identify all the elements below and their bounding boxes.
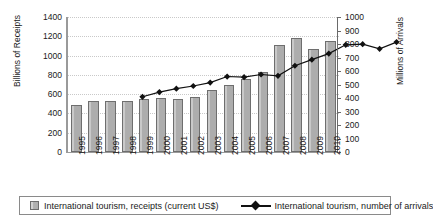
left-y-tick-label: 1200 <box>16 32 62 41</box>
right-y-tick-label: 800 <box>345 40 375 49</box>
legend-label-receipts: International tourism, receipts (current… <box>44 201 219 211</box>
x-tick-label: 2005 <box>248 136 257 155</box>
legend-label-arrivals: International tourism, number of arrival… <box>275 201 433 211</box>
data-point-marker <box>156 89 162 95</box>
right-y-tick <box>337 58 341 59</box>
x-tick-label: 2004 <box>231 136 240 155</box>
right-y-tick-label: 500 <box>345 80 375 89</box>
left-y-tick-label: 1000 <box>16 51 62 60</box>
x-tick-label: 1999 <box>146 136 155 155</box>
x-tick-label: 2003 <box>214 136 223 155</box>
legend-item-receipts: International tourism, receipts (current… <box>20 197 219 214</box>
right-y-tick-label: 200 <box>345 121 375 130</box>
x-tick-label: 2010 <box>333 136 342 155</box>
gridline <box>68 17 339 18</box>
right-y-tick-label: 100 <box>345 134 375 143</box>
data-point-marker <box>139 94 145 100</box>
left-y-tick-label: 1400 <box>16 13 62 22</box>
right-y-tick <box>337 44 341 45</box>
x-tick-label: 2006 <box>265 136 274 155</box>
data-point-marker <box>292 63 298 69</box>
data-point-marker <box>275 73 281 79</box>
right-y-tick-label: 600 <box>345 67 375 76</box>
right-y-tick <box>337 85 341 86</box>
left-y-tick-label: 600 <box>16 90 62 99</box>
data-point-marker <box>173 86 179 92</box>
right-y-tick-label: 400 <box>345 94 375 103</box>
right-y-axis-title: Millions of Arrivals <box>395 0 405 106</box>
left-y-tick-label: 0 <box>16 148 62 157</box>
data-point-marker <box>207 80 213 86</box>
left-y-tick-label: 200 <box>16 128 62 137</box>
legend-swatch-icon <box>30 201 39 210</box>
x-tick-label: 1998 <box>129 136 138 155</box>
chart-legend: International tourism, receipts (current… <box>19 196 391 215</box>
data-point-marker <box>224 73 230 79</box>
plot-area <box>66 17 337 152</box>
x-tick-label: 2009 <box>316 136 325 155</box>
data-point-marker <box>326 50 332 56</box>
data-point-marker <box>309 57 315 63</box>
data-point-marker <box>258 71 264 77</box>
data-point-marker <box>190 83 196 89</box>
data-point-marker <box>241 74 247 80</box>
x-tick-label: 2008 <box>299 136 308 155</box>
x-tick-label: 2007 <box>282 136 291 155</box>
x-tick-label: 1995 <box>78 136 87 155</box>
right-y-tick-label: 300 <box>345 107 375 116</box>
right-y-tick <box>337 125 341 126</box>
legend-line-diamond-icon <box>241 201 271 210</box>
x-tick-label: 2002 <box>197 136 206 155</box>
right-y-tick <box>337 71 341 72</box>
chart-canvas: Billions of Receipts 0200400600800100012… <box>0 0 410 190</box>
left-y-tick-label: 800 <box>16 70 62 79</box>
right-y-tick <box>337 112 341 113</box>
right-y-tick-label: 1000 <box>345 13 375 22</box>
left-y-tick-label: 400 <box>16 109 62 118</box>
left-y-axis: Billions of Receipts 0200400600800100012… <box>0 0 66 190</box>
right-y-tick <box>337 17 341 18</box>
x-tick-label: 1997 <box>112 136 121 155</box>
right-y-tick-label: 0 <box>345 148 375 157</box>
right-y-tick <box>337 98 341 99</box>
x-tick-label: 2000 <box>163 136 172 155</box>
right-y-tick <box>337 31 341 32</box>
x-tick-label: 1996 <box>95 136 104 155</box>
x-tick-label: 2001 <box>180 136 189 155</box>
right-y-tick-label: 700 <box>345 53 375 62</box>
right-y-tick-label: 900 <box>345 26 375 35</box>
legend-item-arrivals: International tourism, number of arrival… <box>219 197 433 214</box>
right-y-axis: Millions of Arrivals 0100200300400500600… <box>337 0 410 190</box>
